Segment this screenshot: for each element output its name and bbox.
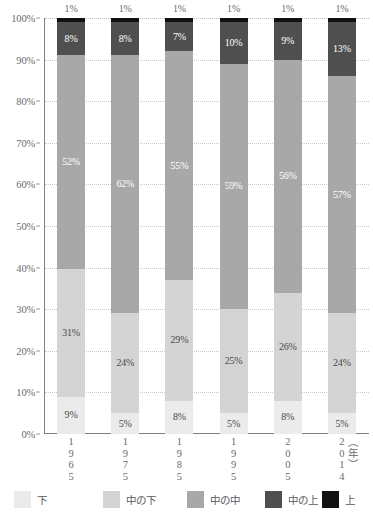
bar-segment[interactable]: 29% (165, 280, 193, 401)
bar-segment-value-label: 31% (62, 328, 80, 338)
x-axis-category-digit: 9 (57, 448, 85, 460)
bar-segment-value-label: 24% (333, 358, 351, 368)
bar-segment-value-label: 5% (119, 419, 132, 429)
x-axis-category-digit: 9 (165, 448, 193, 460)
bar-segment[interactable]: 52% (57, 55, 85, 269)
bar-segment-value-label: 52% (62, 157, 80, 167)
bar-segment[interactable]: 25% (220, 309, 248, 413)
x-axis-category-digit: 5 (57, 471, 85, 483)
bar-segment[interactable]: 57% (328, 76, 356, 313)
x-axis-category-digit: 1 (57, 436, 85, 448)
bar-column[interactable]: 9%31%52%8%1%1% (57, 18, 85, 434)
x-axis-category-digit: 9 (111, 448, 139, 460)
bar-segment[interactable]: 1% (111, 18, 139, 22)
legend-item[interactable]: 下 (14, 490, 47, 508)
y-axis-tick-mark (36, 267, 40, 268)
bar-segment[interactable]: 1% (274, 18, 302, 22)
y-axis-tick-label: 90% (16, 54, 35, 65)
legend-label: 中の下 (126, 492, 156, 507)
x-axis-category-digit: 5 (274, 471, 302, 483)
bar-stack: 8%26%56%9%1% (274, 18, 302, 434)
bar-segment[interactable]: 13% (328, 22, 356, 76)
bar-segment[interactable]: 55% (165, 51, 193, 280)
y-axis-tick-mark (36, 226, 40, 227)
bar-segment-value-label: 29% (171, 335, 189, 345)
bar-segment-value-label: 8% (65, 34, 78, 44)
bar-segment[interactable]: 7% (165, 22, 193, 51)
bar-segment-value-label: 8% (281, 412, 294, 422)
x-axis-category-digit: 8 (165, 459, 193, 471)
bar-segment[interactable]: 8% (57, 22, 85, 55)
y-axis-tick-label: 30% (16, 304, 35, 315)
bar-segment[interactable]: 26% (274, 293, 302, 401)
bar-segment-value-label: 56% (279, 171, 297, 181)
y-axis-tick-label: 10% (16, 387, 35, 398)
x-axis-category-label: 1985 (165, 436, 193, 482)
bar-segment[interactable]: 24% (328, 313, 356, 413)
bar-segment[interactable]: 9% (274, 22, 302, 59)
y-axis-tick-label: 40% (16, 262, 35, 273)
y-axis-tick-mark (36, 434, 40, 435)
x-axis-category-label: 1995 (220, 436, 248, 482)
x-axis-category-digit: 1 (220, 436, 248, 448)
bar-segment[interactable]: 1% (57, 18, 85, 22)
legend-color-swatch (187, 491, 204, 508)
y-axis-tick-mark (36, 392, 40, 393)
y-axis-tick-label: 20% (16, 345, 35, 356)
bar-column[interactable]: 8%29%55%7%1%1% (165, 18, 193, 434)
legend-label: 中の中 (210, 492, 240, 507)
bar-segment[interactable]: 1% (165, 18, 193, 22)
x-axis-category-digit: 6 (57, 459, 85, 471)
bar-column[interactable]: 5%25%59%10%1%1% (220, 18, 248, 434)
bar-top-value-label: 1% (335, 3, 348, 14)
x-axis-category-digit: 5 (111, 471, 139, 483)
bar-segment[interactable]: 24% (111, 313, 139, 413)
x-axis-category-digit: 0 (274, 448, 302, 460)
x-axis-category-label: 1965 (57, 436, 85, 482)
legend-item[interactable]: 上 (322, 490, 355, 508)
bar-column[interactable]: 8%26%56%9%1%1% (274, 18, 302, 434)
bar-segment[interactable]: 9% (57, 397, 85, 434)
bar-segment[interactable]: 8% (111, 22, 139, 55)
bar-segment-value-label: 8% (119, 34, 132, 44)
y-axis-tick-mark (36, 350, 40, 351)
legend-item[interactable]: 中の下 (103, 490, 156, 508)
bar-top-value-label: 1% (227, 3, 240, 14)
bar-segment[interactable]: 8% (274, 401, 302, 434)
bar-top-value-label: 1% (65, 3, 78, 14)
bar-segment-value-label: 9% (281, 36, 294, 46)
bar-segment[interactable]: 1% (328, 18, 356, 22)
bar-segment[interactable]: 1% (220, 18, 248, 22)
bar-segment[interactable]: 8% (165, 401, 193, 434)
x-axis-category-digit: 1 (165, 436, 193, 448)
bar-segment[interactable]: 59% (220, 64, 248, 309)
bar-segment[interactable]: 5% (328, 413, 356, 434)
bar-segment-value-label: 13% (333, 44, 351, 54)
bar-segment-value-label: 57% (333, 190, 351, 200)
bar-stack: 5%24%62%8%1% (111, 18, 139, 434)
bar-stack: 5%24%57%13%1% (328, 18, 356, 434)
bar-segment[interactable]: 56% (274, 60, 302, 293)
x-axis-category-digit: 4 (328, 471, 356, 483)
x-axis-category-digit: 5 (220, 471, 248, 483)
legend-item[interactable]: 中の中 (187, 490, 240, 508)
bar-segment[interactable]: 31% (57, 269, 85, 397)
legend-item[interactable]: 中の上 (265, 490, 318, 508)
bar-segment[interactable]: 62% (111, 55, 139, 313)
legend-color-swatch (103, 491, 120, 508)
y-axis-tick-label: 50% (16, 221, 35, 232)
bar-column[interactable]: 5%24%57%13%1%1% (328, 18, 356, 434)
bar-segment[interactable]: 10% (220, 22, 248, 64)
x-axis-unit-label: （年） (346, 437, 357, 470)
bar-segment-value-label: 9% (65, 410, 78, 420)
bar-segment-value-label: 7% (173, 32, 186, 42)
bar-column[interactable]: 5%24%62%8%1%1% (111, 18, 139, 434)
x-axis-category-digit: 5 (165, 471, 193, 483)
legend-color-swatch (322, 491, 339, 508)
bar-segment-value-label: 8% (173, 412, 186, 422)
y-axis-tick-mark (36, 101, 40, 102)
bar-segment[interactable]: 5% (111, 413, 139, 434)
bar-segment[interactable]: 5% (220, 413, 248, 434)
y-axis-tick-mark (36, 59, 40, 60)
legend-label: 中の上 (288, 492, 318, 507)
